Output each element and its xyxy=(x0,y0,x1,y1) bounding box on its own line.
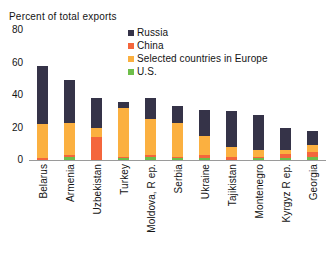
bar-segment xyxy=(172,106,183,122)
x-axis-tick: Tajikistan xyxy=(218,162,245,266)
x-axis-tick: Armenia xyxy=(56,162,83,266)
x-axis-tick: Serbia xyxy=(164,162,191,266)
stacked-bar[interactable] xyxy=(118,102,129,161)
axis-baseline xyxy=(29,160,326,161)
bar-slot xyxy=(110,30,137,160)
bar-segment xyxy=(226,111,237,147)
bar-segment xyxy=(91,98,102,127)
stacked-bar[interactable] xyxy=(226,111,237,160)
bar-slot xyxy=(245,30,272,160)
x-axis-tick-label: Belarus xyxy=(37,164,48,199)
y-axis: 806040200 xyxy=(0,30,26,160)
bar-slot xyxy=(83,30,110,160)
stacked-bar[interactable] xyxy=(280,128,291,161)
stacked-bar[interactable] xyxy=(145,98,156,160)
chart-container: Percent of total exports RussiaChinaSele… xyxy=(0,0,332,268)
x-axis-tick-label: Montenegro xyxy=(253,164,264,218)
x-axis-tick: Kyrgyz R ep. xyxy=(272,162,299,266)
bar-slot xyxy=(218,30,245,160)
x-axis-tick: Montenegro xyxy=(245,162,272,266)
x-axis-tick: Belarus xyxy=(29,162,56,266)
x-axis-tick-label: Georgia xyxy=(307,164,318,200)
bar-slot xyxy=(29,30,56,160)
x-axis-tick: Ukraine xyxy=(191,162,218,266)
chart-title: Percent of total exports xyxy=(9,11,117,22)
bar-segment xyxy=(199,110,210,136)
bar-segment xyxy=(37,66,48,125)
x-axis-tick-label: Moldova, R ep. xyxy=(145,164,156,233)
bar-segment xyxy=(199,136,210,156)
y-axis-tick-label: 20 xyxy=(12,123,23,133)
stacked-bar[interactable] xyxy=(64,80,75,160)
bar-segment xyxy=(91,137,102,160)
x-axis-tick: Georgia xyxy=(299,162,326,266)
bar-segment xyxy=(64,80,75,122)
stacked-bar[interactable] xyxy=(172,106,183,160)
bar-segment xyxy=(64,123,75,156)
y-axis-tick-label: 40 xyxy=(12,90,23,100)
bar-slot xyxy=(56,30,83,160)
plot-area xyxy=(29,30,326,160)
x-axis-tick: Turkey xyxy=(110,162,137,266)
bar-group xyxy=(29,30,326,160)
x-axis-tick-label: Uzbekistan xyxy=(91,164,102,214)
stacked-bar[interactable] xyxy=(253,115,264,161)
bar-segment xyxy=(37,124,48,158)
bar-slot xyxy=(164,30,191,160)
bar-segment xyxy=(91,128,102,138)
bar-segment xyxy=(145,98,156,119)
bar-segment xyxy=(118,108,129,157)
x-axis-tick-label: Kyrgyz R ep. xyxy=(280,164,291,222)
x-axis-tick-label: Ukraine xyxy=(199,164,210,199)
bar-segment xyxy=(253,115,264,151)
stacked-bar[interactable] xyxy=(91,98,102,160)
bar-segment xyxy=(307,131,318,146)
bar-segment xyxy=(226,147,237,157)
y-axis-tick-label: 60 xyxy=(12,58,23,68)
bar-segment xyxy=(145,119,156,155)
x-axis-tick-label: Serbia xyxy=(172,164,183,194)
bar-slot xyxy=(299,30,326,160)
x-axis-tick-label: Armenia xyxy=(64,164,75,202)
bar-segment xyxy=(172,123,183,157)
x-axis-tick-label: Tajikistan xyxy=(226,164,237,206)
bar-slot xyxy=(137,30,164,160)
x-axis-tick-label: Turkey xyxy=(118,164,129,195)
x-axis-tick: Uzbekistan xyxy=(83,162,110,266)
x-axis: BelarusArmeniaUzbekistanTurkeyMoldova, R… xyxy=(29,162,326,266)
bar-slot xyxy=(272,30,299,160)
bar-segment xyxy=(280,128,291,151)
stacked-bar[interactable] xyxy=(307,131,318,160)
stacked-bar[interactable] xyxy=(199,110,210,160)
x-axis-tick: Moldova, R ep. xyxy=(137,162,164,266)
y-axis-tick-label: 0 xyxy=(17,155,23,165)
y-axis-tick-label: 80 xyxy=(12,25,23,35)
stacked-bar[interactable] xyxy=(37,66,48,160)
bar-slot xyxy=(191,30,218,160)
